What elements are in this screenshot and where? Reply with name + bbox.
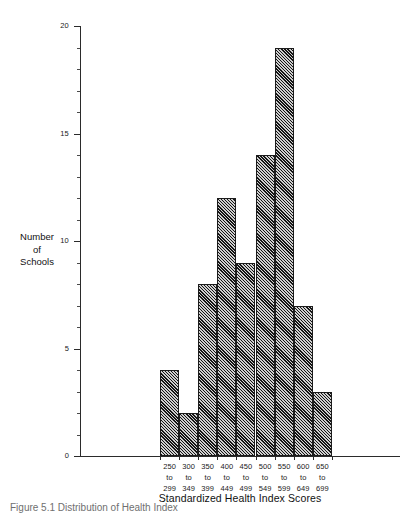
x-tick <box>275 456 276 460</box>
x-tick <box>236 456 237 460</box>
y-tick-minor <box>77 69 80 70</box>
x-tick <box>160 456 161 460</box>
histogram-bar <box>275 48 294 457</box>
histogram-bar <box>236 263 255 457</box>
y-tick-major <box>74 134 80 135</box>
y-tick-label: 20 <box>60 22 69 30</box>
y-tick-label: 5 <box>65 345 69 353</box>
y-tick-minor <box>77 370 80 371</box>
x-category-label-line-1: 650 <box>313 461 332 472</box>
y-axis-title-line-2: of <box>8 244 66 257</box>
x-category-label: 300to349 <box>179 461 198 494</box>
y-axis-title: Number of Schools <box>8 231 66 269</box>
y-tick-minor <box>77 327 80 328</box>
y-tick-major <box>74 26 80 27</box>
x-tick <box>179 456 180 460</box>
x-category-label-line-1: 400 <box>217 461 236 472</box>
bar-series <box>160 26 332 456</box>
histogram-bar <box>294 306 313 457</box>
x-category-label-line-2: to <box>179 472 198 483</box>
x-tick <box>313 456 314 460</box>
x-tick <box>256 456 257 460</box>
y-tick-minor <box>77 263 80 264</box>
x-tick <box>217 456 218 460</box>
y-tick-minor <box>77 198 80 199</box>
y-tick-minor <box>77 392 80 393</box>
x-category-label-line-2: to <box>294 472 313 483</box>
y-tick-label: 0 <box>65 452 69 460</box>
x-category-label-line-2: to <box>236 472 255 483</box>
x-category-label-line-2: to <box>275 472 294 483</box>
x-category-label-line-1: 250 <box>160 461 179 472</box>
x-category-label-line-1: 350 <box>198 461 217 472</box>
y-tick-minor <box>77 177 80 178</box>
figure-caption: Figure 5.1 Distribution of Health Index <box>10 502 310 514</box>
x-category-label: 550to599 <box>275 461 294 494</box>
y-tick-minor <box>77 435 80 436</box>
x-tick <box>332 456 333 460</box>
x-category-label-line-1: 600 <box>294 461 313 472</box>
y-tick-minor <box>77 284 80 285</box>
x-category-label: 600to649 <box>294 461 313 494</box>
y-tick-minor <box>77 91 80 92</box>
x-category-label: 450to499 <box>236 461 255 494</box>
y-axis-title-line-1: Number <box>8 231 66 244</box>
x-category-label-line-2: to <box>217 472 236 483</box>
histogram-bar <box>256 155 275 456</box>
y-tick-minor <box>77 155 80 156</box>
x-category-label-line-1: 300 <box>179 461 198 472</box>
histogram-bar <box>198 284 217 456</box>
histogram-bar <box>313 392 332 457</box>
x-tick <box>294 456 295 460</box>
y-tick-major <box>74 349 80 350</box>
x-category-label-line-2: to <box>198 472 217 483</box>
x-axis-category-labels: 250to299300to349350to399400to449450to499… <box>160 461 332 495</box>
y-axis-line <box>80 26 81 457</box>
y-tick-minor <box>77 112 80 113</box>
y-tick-major <box>74 241 80 242</box>
y-tick-major <box>74 456 80 457</box>
x-tick <box>198 456 199 460</box>
x-category-label-line-1: 550 <box>275 461 294 472</box>
histogram-bar <box>160 370 179 456</box>
x-category-label-line-1: 500 <box>256 461 275 472</box>
x-category-label: 350to399 <box>198 461 217 494</box>
histogram-bar <box>179 413 198 456</box>
y-tick-minor <box>77 220 80 221</box>
x-category-label: 400to449 <box>217 461 236 494</box>
y-tick-label: 15 <box>60 130 69 138</box>
y-axis-title-line-3: Schools <box>8 256 66 269</box>
x-category-label-line-2: to <box>256 472 275 483</box>
histogram-bar <box>217 198 236 456</box>
figure-caption-text: Figure 5.1 Distribution of Health Index <box>10 502 178 513</box>
x-category-label-line-2: to <box>313 472 332 483</box>
x-category-label-line-1: 450 <box>236 461 255 472</box>
y-tick-minor <box>77 413 80 414</box>
x-category-label: 250to299 <box>160 461 179 494</box>
y-tick-minor <box>77 306 80 307</box>
y-tick-minor <box>77 48 80 49</box>
x-category-label: 500to549 <box>256 461 275 494</box>
x-category-label: 650to699 <box>313 461 332 494</box>
x-category-label-line-2: to <box>160 472 179 483</box>
x-axis-line <box>80 456 400 457</box>
